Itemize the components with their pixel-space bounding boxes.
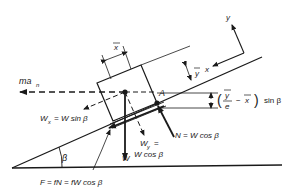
normal-force-label: N = W cos β <box>175 131 219 140</box>
moment-arm-xbar: x <box>244 96 250 105</box>
moment-arm-numerator: y <box>224 91 230 100</box>
xbar-dimension <box>106 52 127 60</box>
block-top-extension <box>141 46 190 65</box>
inertia-force-subscript: n <box>36 82 40 88</box>
moment-arm-minus: − <box>236 96 241 105</box>
moment-arm-denominator: e <box>225 102 230 111</box>
xbar-label: x <box>113 43 119 52</box>
wx-subscript: x <box>47 119 51 125</box>
weight-label-below: W <box>122 154 131 163</box>
ground-line <box>12 165 282 168</box>
ybar-dimension <box>186 66 191 80</box>
friction-leader <box>93 130 110 170</box>
axis-y-arrow <box>232 25 244 53</box>
point-a-label: A <box>158 88 165 98</box>
free-body-diagram: β x y y x ( y e − x ) sin β ma n W x = W… <box>0 0 293 195</box>
normal-force-arrow <box>158 106 174 137</box>
axis-y-label: y <box>225 13 231 22</box>
friction-arrow <box>109 106 164 128</box>
wx-equation: = W sin β <box>54 114 88 123</box>
inertia-force-label: ma <box>19 76 32 86</box>
ybar-label: y <box>194 69 200 78</box>
angle-label: β <box>61 153 67 163</box>
center-of-gravity <box>122 89 127 94</box>
wy-equation: W cos β <box>134 150 163 159</box>
moment-arm-close-paren: ) <box>254 92 259 108</box>
point-a <box>154 100 159 105</box>
moment-arm-sin-beta: sin β <box>264 96 281 105</box>
moment-arm-open-paren: ( <box>217 92 222 108</box>
axis-x-label: x <box>204 65 210 74</box>
wy-equals: = <box>154 139 159 148</box>
friction-label: F = fN = fW cos β <box>40 178 103 187</box>
